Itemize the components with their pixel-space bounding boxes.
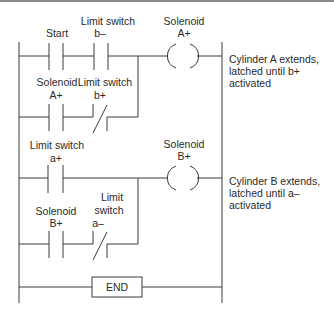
note-rung-1-line-3: activated <box>229 77 271 89</box>
label-solenoid-b-plus-1: Solenoid <box>36 205 77 217</box>
ladder-diagram: END Start Limit switch b– Solenoid A+ So… <box>0 0 334 317</box>
label-limit-switch-a-plus-1: Limit switch <box>30 139 84 151</box>
label-coil-b-plus-2: B+ <box>177 150 190 162</box>
contact-limit-switch-b-plus-nc <box>93 104 107 133</box>
end-rung: END <box>19 277 222 297</box>
contact-limit-switch-a-plus <box>48 165 63 193</box>
note-rung-2-line-3: activated <box>229 199 271 211</box>
label-solenoid-b-plus-2: B+ <box>49 217 62 229</box>
contact-limit-switch-b-minus <box>94 43 108 70</box>
coil-solenoid-a-plus <box>167 44 198 68</box>
note-rung-1-line-1: Cylinder A extends, <box>229 53 319 65</box>
rung-1 <box>19 43 222 133</box>
note-rung-2-line-1: Cylinder B extends, <box>229 175 320 187</box>
label-limit-switch-b-plus-1: Limit switch <box>78 76 132 88</box>
label-limit-switch-a-minus-1: Limit <box>101 191 123 203</box>
label-limit-switch-a-minus-3: a– <box>92 217 104 229</box>
contact-solenoid-a-plus <box>49 104 63 131</box>
note-rung-1-line-2: latched until b+ <box>229 65 300 77</box>
label-limit-switch-b-minus-2: b– <box>94 27 106 39</box>
label-solenoid-a-plus-1: Solenoid <box>37 76 78 88</box>
note-rung-2-line-2: latched until a– <box>229 187 300 199</box>
label-limit-switch-b-plus-2: b+ <box>94 89 106 101</box>
label-limit-switch-a-minus-2: switch <box>94 204 123 216</box>
label-coil-a-plus-1: Solenoid <box>164 15 205 27</box>
label-coil-a-plus-2: A+ <box>177 27 190 39</box>
label-start: Start <box>46 27 68 39</box>
contact-start <box>49 43 63 70</box>
contact-limit-switch-a-minus-nc <box>93 231 107 260</box>
label-limit-switch-b-minus-1: Limit switch <box>81 15 135 27</box>
label-coil-b-plus-1: Solenoid <box>164 138 205 150</box>
end-label: END <box>106 281 129 293</box>
label-limit-switch-a-plus-2: a+ <box>50 152 62 164</box>
coil-solenoid-b-plus <box>167 166 198 190</box>
contact-solenoid-b-plus <box>49 231 63 258</box>
label-solenoid-a-plus-2: A+ <box>49 89 62 101</box>
